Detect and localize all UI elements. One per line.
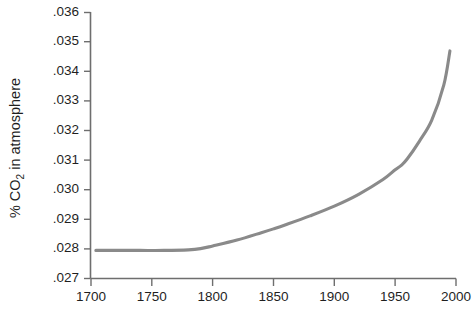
y-tick-label: .033 bbox=[53, 92, 79, 107]
y-tick-label: .032 bbox=[53, 122, 79, 137]
y-tick-label: .034 bbox=[53, 63, 80, 78]
y-tick-label: .036 bbox=[53, 4, 79, 19]
y-tick-label: .029 bbox=[53, 211, 79, 226]
y-tick-label: .028 bbox=[53, 240, 79, 255]
y-tick-label: .027 bbox=[53, 270, 79, 285]
y-axis-title-prefix: % CO bbox=[7, 179, 23, 218]
co2-line-chart: % CO2 in atmosphere .027 .028 .029 .030 … bbox=[0, 0, 475, 313]
chart-canvas: % CO2 in atmosphere .027 .028 .029 .030 … bbox=[0, 0, 475, 313]
x-tick-label: 2000 bbox=[441, 289, 471, 304]
y-tick-marks bbox=[84, 13, 91, 279]
x-tick-marks bbox=[91, 279, 456, 287]
x-tick-label: 1900 bbox=[319, 289, 349, 304]
x-tick-label: 1750 bbox=[137, 289, 167, 304]
x-tick-label: 1950 bbox=[380, 289, 410, 304]
x-tick-labels: 1700 1750 1800 1850 1900 1950 2000 bbox=[76, 289, 471, 304]
x-tick-label: 1700 bbox=[76, 289, 106, 304]
y-tick-label: .030 bbox=[53, 181, 79, 196]
y-tick-labels: .027 .028 .029 .030 .031 .032 .033 .034 … bbox=[53, 4, 80, 285]
y-tick-label: .035 bbox=[53, 33, 79, 48]
y-tick-label: .031 bbox=[53, 152, 79, 167]
x-tick-label: 1800 bbox=[198, 289, 228, 304]
y-axis-title: % CO2 in atmosphere bbox=[7, 78, 26, 218]
y-axis-title-suffix: in atmosphere bbox=[7, 78, 23, 174]
x-tick-label: 1850 bbox=[258, 289, 288, 304]
co2-data-line bbox=[96, 51, 450, 251]
